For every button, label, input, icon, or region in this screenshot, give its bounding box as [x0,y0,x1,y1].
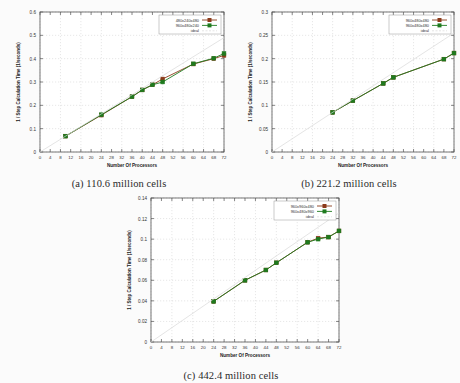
svg-text:0: 0 [150,345,153,350]
svg-text:72: 72 [452,155,457,160]
svg-text:68: 68 [326,345,331,350]
svg-text:0.02: 0.02 [138,319,147,324]
svg-text:Number Of Processors: Number Of Processors [220,353,270,358]
svg-text:12: 12 [180,345,185,350]
svg-text:12: 12 [68,155,73,160]
svg-text:16: 16 [78,155,83,160]
plot-area-a: 00.10.20.30.40.50.6048121620242832364044… [8,6,230,190]
svg-text:48: 48 [160,155,165,160]
svg-text:20: 20 [320,155,325,160]
svg-text:ideal: ideal [191,28,199,33]
svg-text:0.25: 0.25 [259,33,268,38]
svg-text:40: 40 [253,345,258,350]
svg-text:52: 52 [284,345,289,350]
svg-text:72: 72 [337,345,342,350]
svg-text:24: 24 [330,155,335,160]
svg-text:Number Of Processors: Number Of Processors [338,163,388,168]
svg-text:0.4: 0.4 [30,57,37,62]
svg-text:0.6: 0.6 [30,10,37,15]
svg-text:28: 28 [340,155,345,160]
svg-text:64: 64 [201,155,206,160]
svg-text:68: 68 [441,155,446,160]
figure-panel-a: 00.10.20.30.40.50.6048121620242832364044… [8,6,230,190]
svg-text:24: 24 [99,155,104,160]
svg-text:480x240x480: 480x240x480 [176,18,200,23]
svg-text:0.04: 0.04 [138,299,147,304]
svg-text:52: 52 [170,155,175,160]
svg-text:960x480x480: 960x480x480 [406,23,430,28]
svg-text:56: 56 [295,345,300,350]
plot-area-c: 00.020.040.060.080.10.120.14048121620242… [115,192,347,382]
plot-area-b: 00.050.10.150.20.250.3048121620242832364… [238,6,460,190]
svg-text:0: 0 [33,150,36,155]
svg-text:ideal: ideal [421,28,429,33]
svg-text:8: 8 [291,155,294,160]
svg-text:0.15: 0.15 [259,80,268,85]
svg-text:0.12: 0.12 [138,217,147,222]
svg-text:56: 56 [411,155,416,160]
svg-text:960x480x480: 960x480x480 [406,18,430,23]
caption-c: (c) 442.4 million cells [115,370,347,381]
svg-text:1 / Step Calculation Time (1/s: 1 / Step Calculation Time (1/seconds) [16,42,21,122]
figure-panel-b: 00.050.10.150.20.250.3048121620242832364… [238,6,460,190]
svg-text:1 / Step Calculation Time (1/s: 1 / Step Calculation Time (1/seconds) [127,230,132,310]
svg-text:0: 0 [144,340,147,345]
svg-text:16: 16 [310,155,315,160]
svg-text:0.1: 0.1 [262,103,269,108]
figure-panel-c: 00.020.040.060.080.10.120.14048121620242… [115,192,347,382]
svg-text:0.08: 0.08 [138,258,147,263]
svg-text:ideal: ideal [306,214,314,219]
svg-text:48: 48 [391,155,396,160]
svg-text:36: 36 [130,155,135,160]
svg-text:Number Of Processors: Number Of Processors [107,163,157,168]
svg-text:1 / Step Calculation Time (1/s: 1 / Step Calculation Time (1/seconds) [248,42,253,122]
svg-text:4: 4 [281,155,284,160]
chart-c: 00.020.040.060.080.10.120.14048121620242… [115,192,347,366]
chart-a: 00.10.20.30.40.50.6048121620242832364044… [8,6,230,174]
svg-text:0: 0 [271,155,274,160]
svg-text:48: 48 [274,345,279,350]
svg-text:960x480x240: 960x480x240 [176,23,200,28]
svg-text:0.5: 0.5 [30,33,37,38]
svg-text:64: 64 [316,345,321,350]
svg-text:0.14: 0.14 [138,196,147,201]
svg-text:44: 44 [263,345,268,350]
svg-text:0.3: 0.3 [30,80,37,85]
svg-text:36: 36 [361,155,366,160]
svg-text:24: 24 [211,345,216,350]
svg-text:44: 44 [150,155,155,160]
svg-text:36: 36 [243,345,248,350]
svg-text:0.3: 0.3 [262,10,269,15]
svg-text:16: 16 [190,345,195,350]
svg-text:0: 0 [265,150,268,155]
svg-text:4: 4 [49,155,52,160]
caption-b: (b) 221.2 million cells [238,178,460,189]
svg-text:0.1: 0.1 [141,237,148,242]
svg-text:60: 60 [421,155,426,160]
svg-text:0: 0 [39,155,42,160]
chart-b: 00.050.10.150.20.250.3048121620242832364… [238,6,460,174]
svg-text:40: 40 [371,155,376,160]
svg-text:0.06: 0.06 [138,278,147,283]
svg-text:20: 20 [201,345,206,350]
svg-text:12: 12 [300,155,305,160]
svg-text:52: 52 [401,155,406,160]
svg-text:68: 68 [211,155,216,160]
svg-text:72: 72 [222,155,227,160]
svg-text:960x480x960: 960x480x960 [291,209,315,214]
svg-text:28: 28 [109,155,114,160]
svg-text:8: 8 [59,155,62,160]
svg-text:28: 28 [222,345,227,350]
svg-text:20: 20 [89,155,94,160]
svg-text:0.05: 0.05 [259,127,268,132]
svg-text:32: 32 [232,345,237,350]
caption-a: (a) 110.6 million cells [8,178,230,189]
svg-text:56: 56 [181,155,186,160]
svg-text:44: 44 [381,155,386,160]
svg-text:40: 40 [140,155,145,160]
svg-text:0.1: 0.1 [30,127,37,132]
svg-text:0.2: 0.2 [262,57,269,62]
svg-text:32: 32 [119,155,124,160]
svg-text:960x960x480: 960x960x480 [291,204,315,209]
svg-text:64: 64 [431,155,436,160]
